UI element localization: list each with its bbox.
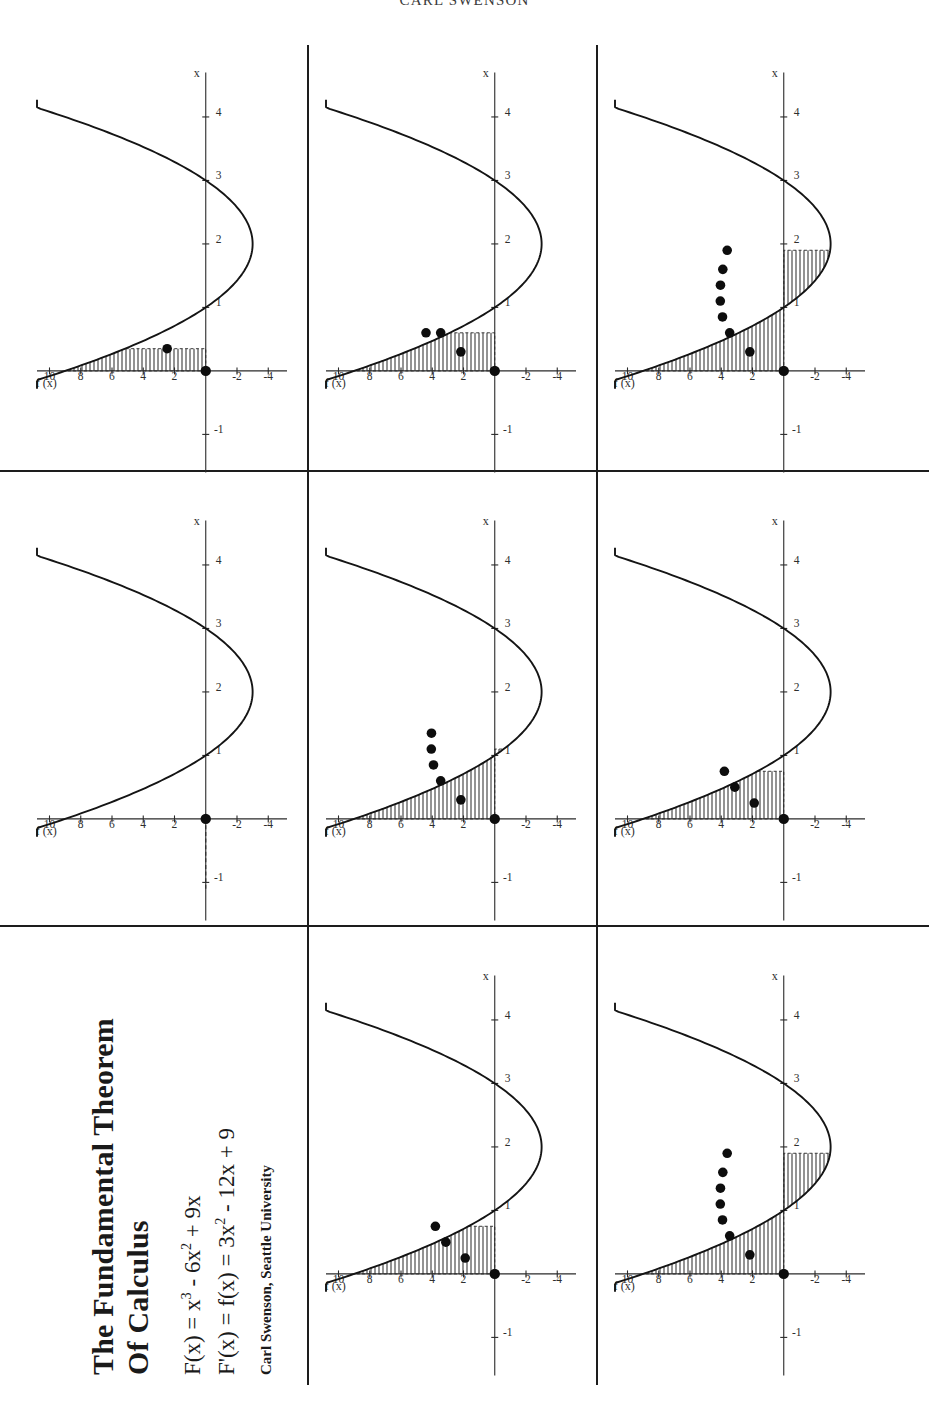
svg-text:6: 6 <box>109 370 115 382</box>
svg-text:4: 4 <box>505 106 511 118</box>
svg-text:-1: -1 <box>214 423 224 435</box>
equation-f: F'(x) = f(x) = 3x2 - 12x + 9 <box>212 1128 240 1375</box>
svg-text:2: 2 <box>794 681 800 693</box>
svg-text:8: 8 <box>367 1273 373 1285</box>
svg-text:6: 6 <box>398 370 404 382</box>
svg-text:3: 3 <box>794 169 800 181</box>
svg-text:4: 4 <box>505 1009 511 1021</box>
svg-text:8: 8 <box>367 818 373 830</box>
svg-text:2: 2 <box>750 1273 756 1285</box>
svg-text:4: 4 <box>429 1273 435 1285</box>
svg-text:4: 4 <box>429 818 435 830</box>
svg-text:2: 2 <box>505 1136 511 1148</box>
svg-text:-4: -4 <box>841 818 851 830</box>
svg-text:3: 3 <box>216 169 222 181</box>
svg-text:2: 2 <box>461 818 467 830</box>
svg-text:6: 6 <box>687 1273 693 1285</box>
svg-text:x: x <box>483 514 489 528</box>
svg-text:4: 4 <box>794 106 800 118</box>
svg-text:2: 2 <box>505 233 511 245</box>
svg-text:8: 8 <box>367 370 373 382</box>
svg-text:-4: -4 <box>552 370 562 382</box>
svg-text:4: 4 <box>505 554 511 566</box>
svg-text:2: 2 <box>505 681 511 693</box>
graph-panel-4: -11234108642-2-4f (x)x <box>305 45 597 500</box>
svg-text:-4: -4 <box>552 1273 562 1285</box>
svg-text:x: x <box>772 514 778 528</box>
svg-text:2: 2 <box>461 1273 467 1285</box>
svg-text:4: 4 <box>140 370 146 382</box>
svg-text:x: x <box>483 969 489 983</box>
svg-text:-1: -1 <box>792 423 802 435</box>
svg-text:-4: -4 <box>263 370 273 382</box>
svg-text:-1: -1 <box>792 1326 802 1338</box>
svg-text:-1: -1 <box>503 1326 513 1338</box>
svg-text:8: 8 <box>656 1273 662 1285</box>
eq2-pre: F'(x) = f(x) = 3x <box>214 1225 239 1375</box>
svg-text:6: 6 <box>687 370 693 382</box>
svg-text:2: 2 <box>216 681 222 693</box>
graph-panel-3: -11234108642-2-4f (x)x <box>305 948 597 1403</box>
svg-text:-2: -2 <box>810 1273 820 1285</box>
sheet-body: The Fundamental Theorem Of Calculus F(x)… <box>0 0 929 1408</box>
svg-text:-2: -2 <box>810 370 820 382</box>
svg-text:8: 8 <box>656 818 662 830</box>
svg-text:x: x <box>194 66 200 80</box>
graph-panel-7: -11234108642-2-4f (x)x <box>594 493 886 948</box>
svg-text:-2: -2 <box>232 370 242 382</box>
svg-text:-2: -2 <box>521 370 531 382</box>
svg-text:8: 8 <box>656 370 662 382</box>
svg-text:-4: -4 <box>841 1273 851 1285</box>
graph-panel-6: -11234108642-2-4f (x)x <box>594 45 886 500</box>
svg-text:2: 2 <box>794 233 800 245</box>
title-block: The Fundamental Theorem Of Calculus F(x)… <box>8 935 308 1385</box>
graph-panel-8: -11234108642-2-4f (x)x <box>594 948 886 1403</box>
graph-panel-5: -11234108642-2-4f (x)x <box>305 493 597 948</box>
svg-text:2: 2 <box>794 1136 800 1148</box>
svg-text:x: x <box>483 66 489 80</box>
eq2-post: - 12x + 9 <box>214 1128 239 1218</box>
svg-text:2: 2 <box>172 370 178 382</box>
svg-text:-1: -1 <box>503 871 513 883</box>
eq1-post: + 9x <box>180 1196 205 1243</box>
byline: Carl Swenson, Seattle University <box>258 1165 275 1375</box>
svg-text:-2: -2 <box>521 1273 531 1285</box>
svg-text:6: 6 <box>687 818 693 830</box>
svg-text:-4: -4 <box>263 818 273 830</box>
svg-text:x: x <box>772 969 778 983</box>
svg-text:6: 6 <box>398 1273 404 1285</box>
page-title-line2: Of Calculus <box>121 1220 155 1375</box>
svg-text:-2: -2 <box>521 818 531 830</box>
svg-text:2: 2 <box>750 818 756 830</box>
graph-panel-1: -11234108642-2-4f (x)x <box>16 45 308 500</box>
svg-text:4: 4 <box>794 554 800 566</box>
svg-text:8: 8 <box>78 818 84 830</box>
eq1-mid: - 6x <box>180 1250 205 1292</box>
svg-text:4: 4 <box>794 1009 800 1021</box>
svg-text:-4: -4 <box>552 818 562 830</box>
svg-text:-4: -4 <box>841 370 851 382</box>
svg-text:x: x <box>194 514 200 528</box>
svg-text:4: 4 <box>718 370 724 382</box>
equation-F: F(x) = x3 - 6x2 + 9x <box>178 1196 206 1376</box>
svg-text:3: 3 <box>216 617 222 629</box>
svg-text:-2: -2 <box>232 818 242 830</box>
svg-text:3: 3 <box>505 617 511 629</box>
svg-text:3: 3 <box>794 617 800 629</box>
svg-text:8: 8 <box>78 370 84 382</box>
svg-text:-2: -2 <box>810 818 820 830</box>
svg-text:-1: -1 <box>792 871 802 883</box>
svg-text:2: 2 <box>172 818 178 830</box>
svg-text:4: 4 <box>718 1273 724 1285</box>
svg-text:-1: -1 <box>214 871 224 883</box>
svg-text:4: 4 <box>140 818 146 830</box>
svg-text:4: 4 <box>216 554 222 566</box>
svg-text:x: x <box>772 66 778 80</box>
eq1-exponent-3: 3 <box>178 1292 194 1299</box>
page-title-line1: The Fundamental Theorem <box>86 1018 120 1375</box>
svg-text:3: 3 <box>505 169 511 181</box>
svg-text:4: 4 <box>429 370 435 382</box>
svg-text:3: 3 <box>505 1072 511 1084</box>
svg-text:3: 3 <box>794 1072 800 1084</box>
svg-text:-1: -1 <box>503 423 513 435</box>
